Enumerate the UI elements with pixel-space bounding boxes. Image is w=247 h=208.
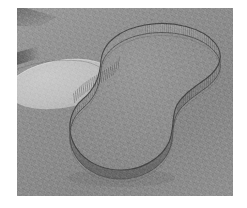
mat-border-left bbox=[0, 0, 17, 208]
mat-border-bottom bbox=[0, 196, 247, 208]
figure-root bbox=[0, 0, 247, 208]
mat-border-right bbox=[233, 0, 247, 208]
contact-shadow bbox=[67, 169, 175, 187]
shell-render bbox=[17, 8, 233, 196]
figure-image bbox=[17, 8, 233, 196]
plateau-edge bbox=[17, 60, 105, 74]
mat-border-top bbox=[0, 0, 247, 8]
